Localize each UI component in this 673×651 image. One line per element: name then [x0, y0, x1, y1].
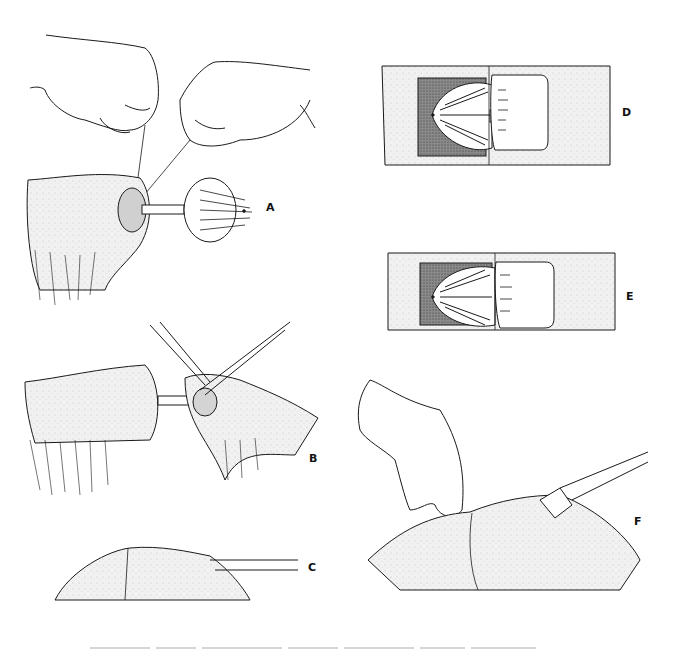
panel-e — [388, 253, 615, 330]
caption-cropped — [90, 643, 560, 651]
panel-label-a: A — [266, 201, 275, 214]
forceps — [150, 325, 205, 385]
panel-a — [27, 35, 315, 305]
hand-f — [358, 380, 463, 516]
surgical-illustration: A D E B — [0, 0, 673, 651]
hand-left — [30, 35, 158, 131]
bowel-f — [368, 495, 640, 590]
cartridge-e — [495, 262, 554, 328]
panel-label-c: C — [308, 561, 316, 574]
cartridge-d — [491, 75, 548, 150]
panel-d — [382, 66, 610, 165]
panel-f — [358, 380, 648, 590]
bowel-b-left — [25, 365, 158, 443]
hand-right — [180, 62, 310, 146]
panel-label-f: F — [634, 515, 642, 528]
bowel-c — [55, 547, 250, 600]
panel-label-d: D — [622, 106, 631, 119]
panel-label-b: B — [309, 452, 317, 465]
panel-b — [25, 322, 318, 495]
panel-c — [55, 547, 298, 600]
panel-label-e: E — [626, 290, 634, 303]
